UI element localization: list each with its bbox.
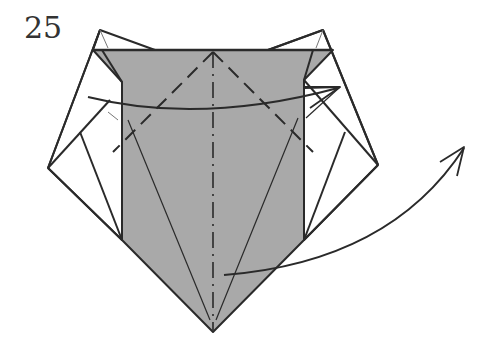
origami-diagram [0,0,485,343]
